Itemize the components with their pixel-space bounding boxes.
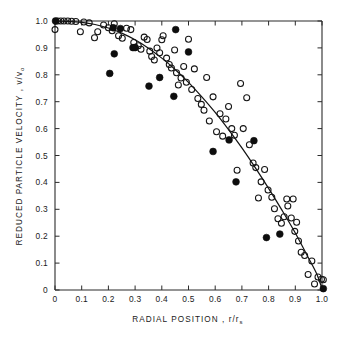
y-tick-label: 0.2 (36, 231, 48, 241)
data-point-filled (226, 137, 233, 144)
x-axis-title: RADIAL POSITION , r/rs (132, 315, 243, 325)
data-point-filled (276, 231, 283, 238)
scatter-plot: 00.10.20.30.40.50.60.70.80.91.0 00.10.20… (0, 0, 344, 337)
x-tick-label: 0.5 (182, 294, 194, 304)
x-tick-label: 0.8 (262, 294, 274, 304)
data-point-filled (172, 26, 179, 33)
data-point-filled (117, 25, 124, 32)
y-tick-label: 0.4 (36, 177, 48, 187)
data-point-filled (320, 285, 327, 292)
y-tick-label: 0 (43, 285, 48, 295)
y-tick-label: 0.5 (36, 151, 48, 161)
x-tick-label: 0.3 (129, 294, 141, 304)
y-tick-label: 0.3 (36, 204, 48, 214)
data-point-filled (132, 44, 139, 51)
x-tick-label: 0.7 (236, 294, 248, 304)
y-tick-label: 1.0 (36, 16, 48, 26)
y-tick-label: 0.9 (36, 43, 48, 53)
x-tick-label: 0.2 (102, 294, 114, 304)
x-tick-label: 1.0 (316, 294, 328, 304)
x-tick-label: 0.4 (156, 294, 168, 304)
x-tick-label: 0.6 (209, 294, 221, 304)
data-point-filled (156, 74, 163, 81)
data-point-filled (52, 18, 59, 25)
data-point-filled (170, 93, 177, 100)
data-point-filled (233, 178, 240, 185)
x-tick-label: 0.9 (289, 294, 301, 304)
y-axis-title: REDUCED PARTICLE VELOCITY , v/vo (15, 67, 25, 246)
data-point-filled (251, 137, 258, 144)
y-tick-label: 0.7 (36, 97, 48, 107)
data-point-filled (210, 148, 217, 155)
data-point-filled (185, 49, 192, 56)
data-point-filled (263, 234, 270, 241)
y-tick-label: 0.6 (36, 124, 48, 134)
figure-container: 00.10.20.30.40.50.60.70.80.91.0 00.10.20… (0, 0, 344, 337)
y-tick-label: 0.8 (36, 70, 48, 80)
y-tick-label: 0.1 (36, 258, 48, 268)
data-point-filled (106, 70, 113, 77)
x-tick-label: 0 (53, 294, 58, 304)
data-point-filled (146, 83, 153, 90)
data-point-filled (110, 24, 117, 31)
data-point-filled (111, 50, 118, 57)
x-tick-label: 0.1 (75, 294, 87, 304)
